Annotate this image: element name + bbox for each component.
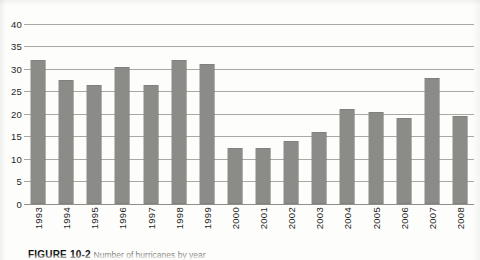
bar-slot (277, 14, 305, 204)
bar-slot (80, 14, 108, 204)
bar-1998 (171, 60, 186, 204)
x-axis-tick-2002: 2002 (286, 207, 297, 229)
bar-slot (165, 14, 193, 204)
bar-2007 (424, 78, 439, 204)
y-axis-tick-20: 20 (0, 108, 22, 119)
bar-slot (221, 14, 249, 204)
bar-2002 (284, 141, 299, 204)
x-axis-tick-1999: 1999 (202, 207, 213, 229)
bar-2001 (256, 148, 271, 204)
bar-1995 (87, 85, 102, 204)
y-axis-tick-25: 25 (0, 86, 22, 97)
bar-2006 (396, 118, 411, 204)
x-axis-tick-2003: 2003 (314, 207, 325, 229)
bar-2004 (340, 109, 355, 204)
bar-series (24, 14, 474, 204)
bar-slot (333, 14, 361, 204)
x-axis-tick-2008: 2008 (455, 207, 466, 229)
bar-slot (362, 14, 390, 204)
gridline-0 (24, 204, 474, 205)
y-axis-tick-35: 35 (0, 41, 22, 52)
bar-chart: 4035302520151050199319941995199619971998… (0, 0, 480, 260)
figure-caption-label: FIGURE 10-2 (28, 249, 91, 260)
bar-slot (418, 14, 446, 204)
x-axis-tick-2007: 2007 (427, 207, 438, 229)
y-axis-tick-10: 10 (0, 153, 22, 164)
bar-2008 (452, 116, 467, 204)
x-axis-tick-1994: 1994 (61, 207, 72, 229)
bar-1996 (115, 67, 130, 204)
bar-1999 (199, 64, 214, 204)
bar-slot (52, 14, 80, 204)
figure-caption-text: Number of hurricanes by year (94, 250, 206, 260)
x-axis-tick-2000: 2000 (230, 207, 241, 229)
bar-slot (108, 14, 136, 204)
bar-1997 (143, 85, 158, 204)
bar-slot (24, 14, 52, 204)
bar-2003 (312, 132, 327, 204)
x-axis-tick-1993: 1993 (33, 207, 44, 229)
bar-1994 (59, 80, 74, 204)
y-axis-tick-40: 40 (0, 18, 22, 29)
bar-slot (446, 14, 474, 204)
bar-slot (390, 14, 418, 204)
x-axis-tick-1995: 1995 (89, 207, 100, 229)
bar-2005 (368, 112, 383, 204)
bar-slot (249, 14, 277, 204)
y-axis-tick-5: 5 (0, 176, 22, 187)
figure-caption: FIGURE 10-2 Number of hurricanes by year (28, 249, 458, 260)
x-axis-tick-2004: 2004 (342, 207, 353, 229)
x-axis-tick-1998: 1998 (174, 207, 185, 229)
y-axis-tick-30: 30 (0, 63, 22, 74)
y-axis-tick-0: 0 (0, 199, 22, 210)
plot-area (24, 14, 474, 204)
x-axis-tick-2005: 2005 (371, 207, 382, 229)
bar-2000 (227, 148, 242, 204)
bar-slot (193, 14, 221, 204)
x-axis-tick-1996: 1996 (117, 207, 128, 229)
x-axis-tick-1997: 1997 (146, 207, 157, 229)
y-axis-tick-15: 15 (0, 131, 22, 142)
bar-1993 (31, 60, 46, 204)
bar-slot (305, 14, 333, 204)
figure-page: 4035302520151050199319941995199619971998… (0, 0, 480, 260)
x-axis-tick-2006: 2006 (399, 207, 410, 229)
bar-slot (137, 14, 165, 204)
x-axis-tick-2001: 2001 (258, 207, 269, 229)
